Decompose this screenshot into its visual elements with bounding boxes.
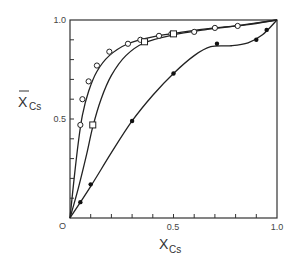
y-axis-label-sub: Cs [29,101,41,112]
filled-circle-marker [89,182,93,186]
filled-circle-marker [254,38,258,42]
plot-border [70,20,277,218]
y-axis-label: X Cs [18,91,41,112]
open-circle-marker [80,97,85,102]
open-circle-marker [156,33,161,38]
open-square-marker [90,122,96,128]
y-tick-label-1.0: 1.0 [53,15,66,25]
x-axis-label-main: X [159,236,169,252]
open-circle-marker [86,79,91,84]
filled-circle-marker [130,119,134,123]
plot-frame [70,20,277,218]
filled-circle-marker [264,28,268,32]
y-axis-label-main: X [18,94,28,110]
x-tick-label-1.0: 1.0 [271,222,284,232]
x-tick-label-0.5: 0.5 [167,222,180,232]
open-circle-marker [94,63,99,68]
open-circle-marker [192,29,197,34]
fitted-curves [70,20,277,218]
x-axis-label-sub: Cs [169,244,181,255]
chart: 1.0 0.5 O 0.5 1.0 X Cs X Cs [0,0,298,267]
open-circle-marker [125,41,130,46]
open-circle-marker [212,25,217,30]
origin-label: O [59,221,66,231]
y-tick-label-0.5: 0.5 [53,114,66,124]
open-circle-marker [235,23,240,28]
open-circle-marker [78,122,83,127]
data-markers [78,23,269,204]
curve-open-circle [70,20,277,218]
curve-filled-circle [70,20,277,218]
curve-open-square [70,20,277,218]
x-axis-label: X Cs [159,236,181,255]
open-square-marker [142,39,148,45]
filled-circle-marker [215,42,219,46]
open-square-marker [171,31,177,37]
open-circle-marker [107,49,112,54]
filled-circle-marker [78,200,82,204]
filled-circle-marker [171,71,175,75]
